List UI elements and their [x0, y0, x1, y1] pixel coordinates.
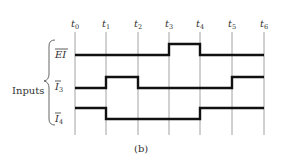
- waveform-ei: [75, 44, 264, 55]
- figure-caption: (b): [134, 143, 148, 154]
- signal-label-ei: EI: [54, 49, 67, 60]
- time-label-t2: t2: [134, 18, 142, 31]
- time-label-t1: t1: [102, 18, 110, 31]
- inputs-label: Inputs: [12, 85, 44, 96]
- waveforms: [75, 44, 264, 119]
- inputs-brace: [44, 40, 55, 125]
- signal-labels: EII3I4: [54, 49, 68, 126]
- time-label-t5: t5: [228, 18, 236, 31]
- signal-label-i3: I3: [54, 81, 63, 94]
- time-label-t0: t0: [71, 18, 79, 31]
- time-label-t6: t6: [260, 18, 268, 31]
- time-label-t4: t4: [196, 18, 204, 31]
- waveform-i4: [75, 108, 264, 119]
- timing-diagram: t0t1t2t3t4t5t6 EII3I4 Inputs (b): [0, 0, 283, 166]
- time-labels: t0t1t2t3t4t5t6: [71, 18, 268, 31]
- waveform-i3: [75, 77, 264, 88]
- signal-label-i4: I4: [54, 113, 63, 126]
- time-label-t3: t3: [165, 18, 173, 31]
